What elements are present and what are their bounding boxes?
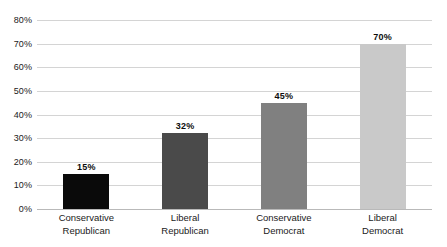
x-axis-label-line: Democrat bbox=[235, 225, 334, 238]
x-axis-label: LiberalRepublican bbox=[136, 212, 235, 237]
y-axis-tick-label: 60% bbox=[0, 62, 32, 72]
y-axis-tick-label: 80% bbox=[0, 15, 32, 25]
chart-title bbox=[0, 0, 447, 1]
x-axis-label-line: Democrat bbox=[333, 225, 432, 238]
bar-value-label: 70% bbox=[373, 32, 392, 42]
y-axis-tick-label: 30% bbox=[0, 133, 32, 143]
x-axis-label: ConservativeDemocrat bbox=[235, 212, 334, 237]
y-axis-tick-label: 40% bbox=[0, 110, 32, 120]
y-axis-tick-label: 70% bbox=[0, 39, 32, 49]
x-axis-label-line: Republican bbox=[37, 225, 136, 238]
bar-group: 70% bbox=[333, 20, 432, 209]
bar[interactable] bbox=[162, 133, 208, 209]
bar[interactable] bbox=[63, 174, 109, 209]
x-axis-category-labels: ConservativeRepublicanLiberalRepublicanC… bbox=[37, 212, 432, 247]
y-axis-tick-label: 0% bbox=[0, 204, 32, 214]
bar-group: 15% bbox=[37, 20, 136, 209]
bar-value-label: 32% bbox=[176, 121, 195, 131]
x-axis-label: ConservativeRepublican bbox=[37, 212, 136, 237]
x-axis-label-line: Conservative bbox=[37, 212, 136, 225]
gridline bbox=[37, 209, 432, 210]
bar-chart: 0%10%20%30%40%50%60%70%80% 15%32%45%70% … bbox=[0, 0, 447, 247]
x-axis-label-line: Conservative bbox=[235, 212, 334, 225]
bar[interactable] bbox=[261, 103, 307, 209]
bar-value-label: 15% bbox=[77, 162, 96, 172]
y-axis-tick-label: 20% bbox=[0, 157, 32, 167]
y-axis-tick-label: 10% bbox=[0, 180, 32, 190]
bar-group: 32% bbox=[136, 20, 235, 209]
bar-value-label: 45% bbox=[275, 91, 294, 101]
x-axis-label: LiberalDemocrat bbox=[333, 212, 432, 237]
y-axis-tick-label: 50% bbox=[0, 86, 32, 96]
bar[interactable] bbox=[360, 44, 406, 209]
x-axis-label-line: Liberal bbox=[333, 212, 432, 225]
x-axis-label-line: Liberal bbox=[136, 212, 235, 225]
x-axis-label-line: Republican bbox=[136, 225, 235, 238]
bars-layer: 15%32%45%70% bbox=[37, 20, 432, 209]
bar-group: 45% bbox=[235, 20, 334, 209]
